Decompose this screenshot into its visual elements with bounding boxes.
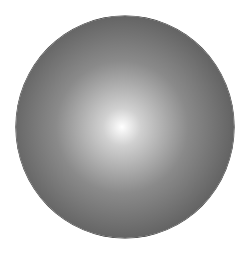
- gradient-sphere: [16, 16, 234, 238]
